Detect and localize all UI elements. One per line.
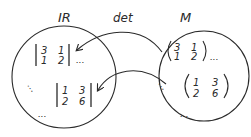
mapping-label: det xyxy=(113,11,134,25)
determinant-mapping-diagram: IR det M 3 1 1 2 ... 1 3 2 6 ⋮ ... 3 1 1… xyxy=(0,0,251,137)
svg-text:6: 6 xyxy=(79,96,85,107)
matrices-vertical-dots: ⋮ xyxy=(154,80,167,93)
svg-text:2: 2 xyxy=(191,51,197,62)
matrix-2: 1 3 2 6 xyxy=(185,74,228,99)
reals-set-circle xyxy=(12,26,116,128)
svg-text:3: 3 xyxy=(79,85,85,96)
matrices-set-circle xyxy=(159,31,249,121)
svg-text:2: 2 xyxy=(62,96,68,107)
determinant-2: 1 3 2 6 xyxy=(57,83,91,107)
svg-text:1: 1 xyxy=(62,85,68,96)
determinant-1: 3 1 1 2 xyxy=(36,44,69,66)
matrix-1: 3 1 1 2 xyxy=(168,41,206,62)
svg-text:1: 1 xyxy=(174,51,180,62)
svg-text:1: 1 xyxy=(41,55,47,66)
arrow-matrix-1-to-determinant-1 xyxy=(77,32,162,52)
matrices-ellipsis-2: ... xyxy=(180,109,189,119)
svg-text:1: 1 xyxy=(193,77,199,88)
matrices-set-label: M xyxy=(180,10,191,25)
svg-text:3: 3 xyxy=(212,77,218,88)
reals-vertical-dots: ⋮ xyxy=(23,82,36,95)
matrices-ellipsis-1: ... xyxy=(210,52,219,62)
svg-text:2: 2 xyxy=(193,88,199,99)
reals-ellipsis-1: ... xyxy=(76,55,85,65)
reals-ellipsis-2: ... xyxy=(38,109,47,119)
svg-text:2: 2 xyxy=(58,55,64,66)
svg-text:6: 6 xyxy=(212,88,218,99)
reals-set-label: IR xyxy=(58,10,71,25)
